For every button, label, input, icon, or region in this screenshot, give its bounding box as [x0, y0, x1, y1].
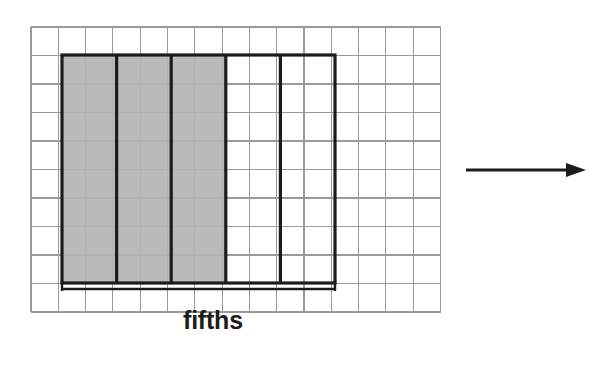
- empty-strip: [226, 55, 281, 283]
- right-arrow-icon: [466, 163, 586, 177]
- arrow-head: [566, 163, 586, 177]
- empty-strip: [280, 55, 335, 283]
- figure-canvas: fifths: [0, 0, 600, 367]
- shaded-strip: [117, 55, 172, 283]
- shaded-strip: [171, 55, 226, 283]
- fifths-caption-label: fifths: [183, 306, 243, 335]
- fifths-diagram-svg: [0, 0, 600, 367]
- shaded-strip: [62, 55, 117, 283]
- rectangle-strips: [62, 55, 335, 283]
